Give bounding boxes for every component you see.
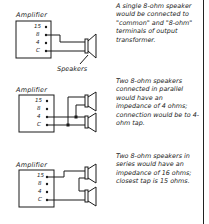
- diagram-parallel-speakers: Amplifier 15 8 4 C Two 8-ohm speakers co…: [0, 75, 209, 149]
- amplifier-box: [19, 170, 54, 207]
- diagram-single-speaker: Amplifier 15 8 4 C Speakers A single 8-o…: [0, 0, 209, 74]
- series-speakers-wiring-diagram: [0, 150, 209, 224]
- amplifier-box: [19, 95, 54, 132]
- single-speaker-wiring-diagram: [0, 0, 209, 74]
- parallel-speakers-wiring-diagram: [0, 75, 209, 149]
- diagram-series-speakers: Amplifier 15 8 4 C Two 8-ohm speakers in…: [0, 150, 209, 224]
